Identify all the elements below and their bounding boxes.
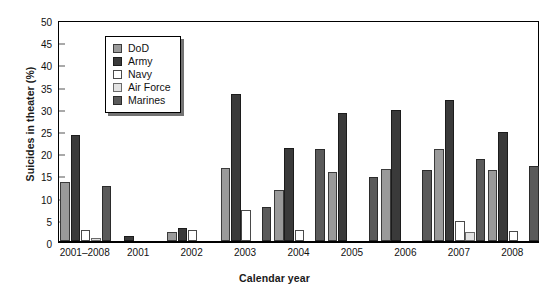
y-tick-label: 0	[0, 239, 59, 250]
bar-air-force	[465, 232, 475, 241]
bar-navy	[509, 231, 519, 241]
bar-army	[71, 135, 81, 241]
x-tick-label: 2002	[180, 247, 202, 258]
bar-dod	[434, 149, 444, 241]
bar-marines	[422, 170, 432, 241]
x-tick-label: 2008	[501, 247, 523, 258]
bar-marines	[102, 186, 112, 242]
bar-navy	[455, 221, 465, 241]
bar-dod	[274, 190, 284, 241]
x-tick-label: 2007	[448, 247, 470, 258]
bar-army	[178, 228, 188, 241]
y-tick-label: 20	[0, 150, 59, 161]
bar-marines	[529, 166, 539, 241]
y-tick-label: 25	[0, 128, 59, 139]
x-tick-label: 2003	[234, 247, 256, 258]
bar-group	[487, 22, 540, 241]
legend-swatch-icon	[113, 83, 122, 92]
legend-swatch-icon	[113, 96, 122, 105]
bar-marines	[315, 149, 325, 241]
bar-group	[380, 22, 433, 241]
chart-legend: DoDArmyNavyAir ForceMarines	[105, 36, 181, 113]
x-tick-label: 2004	[287, 247, 309, 258]
bar-group	[433, 22, 486, 241]
bar-army	[391, 110, 401, 241]
y-tick-label: 5	[0, 216, 59, 227]
x-axis-title: Calendar year	[0, 272, 549, 284]
legend-swatch-icon	[113, 44, 122, 53]
legend-item-air-force: Air Force	[113, 81, 171, 94]
legend-swatch-icon	[113, 57, 122, 66]
bar-navy	[188, 230, 198, 241]
bar-army	[498, 132, 508, 241]
legend-label: DoD	[128, 42, 149, 55]
x-tick-label: 2001	[127, 247, 149, 258]
legend-item-marines: Marines	[113, 94, 171, 107]
bar-group	[273, 22, 326, 241]
y-tick-label: 50	[0, 17, 59, 28]
chart-figure: Suicides in theater (%) 0510152025303540…	[0, 0, 549, 292]
bar-navy	[241, 210, 251, 241]
y-tick-label: 30	[0, 105, 59, 116]
bar-marines	[262, 207, 272, 241]
bar-dod	[328, 172, 338, 241]
y-tick-label: 40	[0, 61, 59, 72]
bar-army	[338, 113, 348, 241]
bar-navy	[81, 230, 91, 241]
bar-group	[326, 22, 379, 241]
legend-item-army: Army	[113, 55, 171, 68]
x-tick-label: 2006	[394, 247, 416, 258]
bar-air-force	[91, 238, 101, 241]
bar-dod	[381, 169, 391, 241]
bar-navy	[295, 230, 305, 241]
bar-dod	[167, 232, 177, 241]
bar-dod	[60, 182, 70, 241]
legend-label: Marines	[128, 94, 165, 107]
bar-group	[219, 22, 272, 241]
y-tick-label: 35	[0, 83, 59, 94]
legend-label: Navy	[128, 68, 152, 81]
x-tick-label: 2005	[341, 247, 363, 258]
legend-label: Army	[128, 55, 153, 68]
bar-dod	[488, 170, 498, 241]
legend-label: Air Force	[128, 81, 171, 94]
y-tick-label: 45	[0, 39, 59, 50]
bar-marines	[369, 177, 379, 241]
x-tick-label: 2001–2008	[60, 247, 110, 258]
legend-swatch-icon	[113, 70, 122, 79]
legend-item-dod: DoD	[113, 42, 171, 55]
bar-army	[284, 148, 294, 241]
y-tick-label: 15	[0, 172, 59, 183]
bar-marines	[476, 159, 486, 241]
bar-army	[124, 236, 134, 241]
bar-army	[231, 94, 241, 241]
legend-item-navy: Navy	[113, 68, 171, 81]
bar-army	[445, 100, 455, 241]
bar-dod	[221, 168, 231, 241]
y-tick-label: 10	[0, 194, 59, 205]
